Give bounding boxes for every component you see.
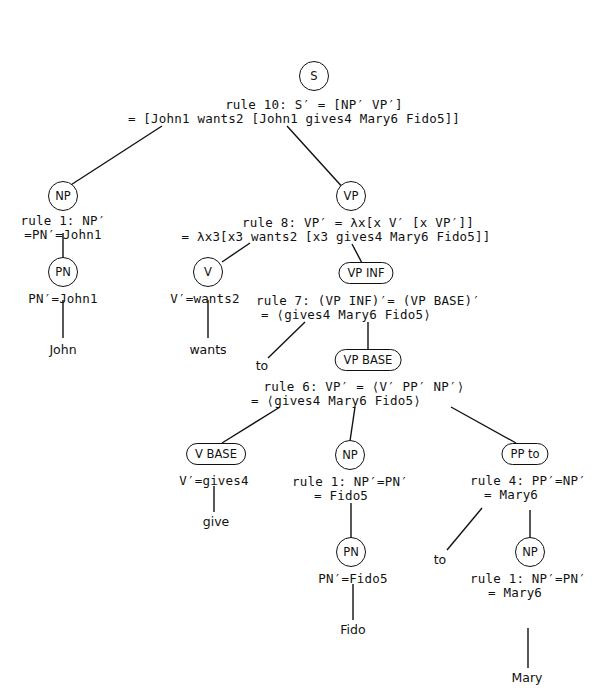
node-v-label: V (204, 265, 212, 279)
rule-1-np-line2: =PN′=John1 (24, 228, 101, 242)
word-to-pp: to (434, 552, 447, 567)
edge-vp-vpinf (352, 244, 362, 263)
node-v-base-label: V BASE (195, 447, 237, 461)
node-pn-fido: PN (336, 537, 366, 567)
rule-4-line1: rule 4: PP′=NP′ (470, 474, 586, 488)
edge-vpbase-vbase (222, 407, 280, 443)
edge-ppto-to (447, 508, 482, 550)
node-np-label: NP (55, 189, 71, 203)
node-vp-base: VP BASE (335, 349, 402, 371)
rule-6-line2: = ⟨gives4 Mary6 Fido5⟩ (251, 394, 421, 408)
word-give: give (203, 514, 230, 529)
word-to-inf: to (256, 358, 269, 373)
word-wants: wants (189, 342, 226, 357)
edge-vpbase-ppto (451, 407, 516, 443)
rule-1-mary-line1: rule 1: NP′=PN′ (470, 572, 586, 586)
node-np-fido-label: NP (342, 448, 358, 462)
pn-john-value: PN′=John1 (28, 292, 98, 306)
node-pn-john: PN (48, 257, 78, 287)
rule-4-line2: = Mary6 (484, 488, 538, 502)
node-np-john: NP (48, 181, 78, 211)
edge-s-vp (287, 126, 345, 190)
rule-10-line1: rule 10: S′ = [NP′ VP′] (225, 98, 403, 112)
rule-7-line2: = ⟨gives4 Mary6 Fido5⟩ (261, 308, 431, 322)
word-fido: Fido (340, 622, 365, 637)
node-vp-inf-label: VP INF (347, 266, 384, 280)
v-gives-value: V′=gives4 (179, 474, 249, 488)
rule-6-line1: rule 6: VP′ = ⟨V′ PP′ NP′⟩ (264, 380, 465, 394)
node-s-label: S (310, 69, 317, 83)
rule-1-mary-line2: = Mary6 (488, 586, 542, 600)
rule-8-line1: rule 8: VP′ = λx[x V′ [x VP′]] (242, 216, 474, 230)
node-pp-to: PP to (501, 443, 548, 465)
edge-vpinf-to (268, 322, 305, 358)
node-vp-label: VP (344, 189, 359, 203)
edge-s-np (63, 126, 162, 190)
rule-1-fido-line1: rule 1: NP′=PN′ (292, 475, 408, 489)
node-np-fido: NP (335, 440, 365, 470)
node-v-base: V BASE (186, 443, 246, 465)
node-vp-base-label: VP BASE (344, 353, 393, 367)
node-np-mary-label: NP (522, 545, 538, 559)
rule-8-line2: = λx3[x3 wants2 [x3 gives4 Mary6 Fido5]] (181, 230, 490, 244)
rule-10-line2: = [John1 wants2 [John1 gives4 Mary6 Fido… (128, 112, 460, 126)
node-np-mary: NP (515, 537, 545, 567)
word-john: John (49, 342, 76, 357)
pn-fido-value: PN′=Fido5 (318, 572, 388, 586)
rule-1-np-line1: rule 1: NP′ (21, 214, 106, 228)
node-pn-label: PN (55, 265, 71, 279)
node-vp: VP (336, 181, 366, 211)
edge-vpbase-np (350, 407, 355, 441)
node-s: S (299, 61, 329, 91)
v-wants-value: V′=wants2 (170, 292, 240, 306)
node-pn-fido-label: PN (343, 545, 359, 559)
rule-7-line1: rule 7: (VP INF)′= (VP BASE)′ (256, 294, 480, 308)
word-mary: Mary (512, 670, 543, 685)
node-vp-inf: VP INF (338, 262, 393, 284)
node-pp-to-label: PP to (510, 447, 539, 461)
edge-vp-v (222, 243, 250, 262)
node-v: V (193, 257, 223, 287)
rule-1-fido-line2: = Fido5 (314, 489, 368, 503)
